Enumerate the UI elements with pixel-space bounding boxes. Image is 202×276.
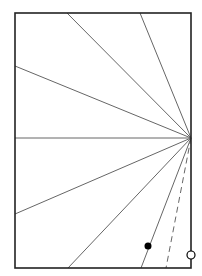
- rectangle-frame: [15, 13, 191, 268]
- filled-dot-marker: [145, 243, 152, 250]
- ray-left-lower: [15, 138, 191, 214]
- ray-dashed: [166, 138, 191, 268]
- ray-group: [15, 13, 191, 268]
- open-circle-marker: [187, 251, 195, 259]
- ray-bottom-1: [68, 138, 191, 268]
- ray-top-1: [67, 13, 191, 138]
- fan-diagram: [0, 0, 202, 276]
- ray-top-2: [140, 13, 191, 138]
- ray-left-upper: [15, 66, 191, 138]
